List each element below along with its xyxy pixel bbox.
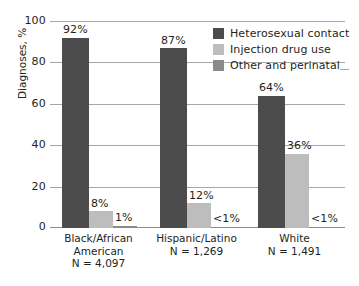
legend-label: Injection drug use bbox=[230, 43, 331, 56]
y-tick-0: 0 bbox=[4, 220, 46, 233]
legend-label: Other and perinatal bbox=[230, 59, 340, 72]
category-label-black-african-american: Black/African American N = 4,097 bbox=[46, 232, 151, 270]
bar-injection-drug-use[interactable] bbox=[187, 203, 211, 228]
bar-heterosexual-contact[interactable] bbox=[160, 48, 187, 228]
legend-item-heterosexual-contact[interactable]: Heterosexual contact bbox=[213, 27, 349, 40]
bar-label-other-and-perinatal: 1% bbox=[115, 211, 133, 224]
legend-label: Heterosexual contact bbox=[230, 27, 349, 40]
legend-item-other-and-perinatal[interactable]: Other and perinatal bbox=[213, 59, 349, 72]
bar-label-other-and-perinatal: <1% bbox=[213, 212, 240, 225]
legend-swatch-icon bbox=[213, 44, 224, 55]
bar-other-and-perinatal[interactable] bbox=[309, 227, 333, 229]
category-label-hispanic-latino: Hispanic/Latino N = 1,269 bbox=[144, 232, 249, 257]
legend: Heterosexual contact Injection drug use … bbox=[213, 27, 349, 72]
legend-swatch-icon bbox=[213, 28, 224, 39]
bar-label-heterosexual-contact: 64% bbox=[259, 81, 284, 94]
bar-heterosexual-contact[interactable] bbox=[62, 38, 89, 228]
bar-other-and-perinatal[interactable] bbox=[211, 227, 235, 229]
bar-group-black-african-american: 92% 8% 1% bbox=[62, 21, 152, 228]
bar-injection-drug-use[interactable] bbox=[285, 154, 309, 229]
bar-heterosexual-contact[interactable] bbox=[258, 96, 285, 229]
legend-item-injection-drug-use[interactable]: Injection drug use bbox=[213, 43, 349, 56]
bar-label-injection-drug-use: 12% bbox=[189, 189, 214, 202]
y-axis-title: Diagnoses, % bbox=[16, 28, 28, 99]
legend-swatch-icon bbox=[213, 60, 224, 71]
bar-chart: Diagnoses, % 92% 8% 1% 87% 12% <1% bbox=[0, 0, 359, 286]
bar-label-heterosexual-contact: 87% bbox=[161, 34, 186, 47]
y-tick-20: 20 bbox=[4, 180, 46, 193]
bar-injection-drug-use[interactable] bbox=[89, 211, 113, 228]
y-tick-40: 40 bbox=[4, 138, 46, 151]
bar-label-injection-drug-use: 8% bbox=[91, 197, 109, 210]
category-label-white: White N = 1,491 bbox=[242, 232, 347, 257]
bar-other-and-perinatal[interactable] bbox=[113, 226, 137, 229]
gridline-fragment-right bbox=[340, 69, 349, 70]
y-tick-100: 100 bbox=[4, 14, 46, 27]
bar-label-injection-drug-use: 36% bbox=[287, 139, 312, 152]
bar-label-heterosexual-contact: 92% bbox=[63, 23, 88, 36]
bar-label-other-and-perinatal: <1% bbox=[311, 212, 338, 225]
